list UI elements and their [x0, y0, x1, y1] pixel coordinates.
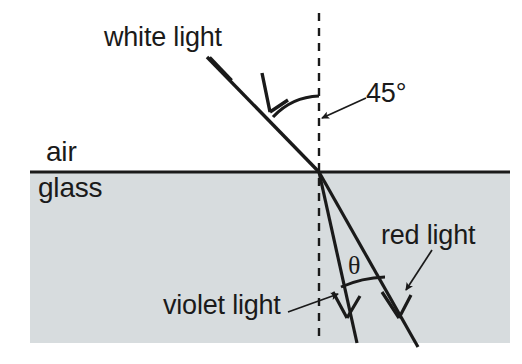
angle-45-leader-line [322, 98, 366, 118]
glass-medium-label: glass [38, 174, 102, 202]
optics-diagram: white light 45° air glass red light viol… [0, 0, 522, 364]
white-light-leader-line [210, 57, 232, 80]
incidence-angle-label: 45° [366, 80, 406, 107]
violet-light-label: violet light [163, 292, 281, 319]
air-medium-label: air [46, 138, 77, 166]
white-light-label: white light [104, 24, 222, 51]
refraction-angle-label: θ [348, 253, 360, 279]
red-light-label: red light [381, 222, 475, 249]
